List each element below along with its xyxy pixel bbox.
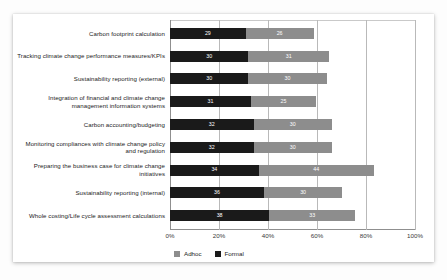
chart-legend: Adhoc Formal [174, 250, 244, 257]
bar-value-label: 44 [313, 167, 319, 172]
bar-value-label: 38 [217, 213, 223, 218]
bar-segment-adhoc[interactable]: 30 [248, 73, 326, 84]
bar-segment-formal[interactable]: 32 [170, 119, 254, 130]
bar-segment-formal[interactable]: 30 [170, 51, 248, 62]
x-tick-label: 40% [262, 232, 274, 239]
stacked-bar[interactable]: 3030 [170, 73, 431, 84]
bar-segment-formal[interactable]: 36 [170, 187, 264, 198]
bar-segment-formal[interactable]: 34 [170, 165, 259, 176]
bar-area: 3030 [170, 68, 431, 91]
category-label: Monitoring compliances with climate chan… [16, 140, 170, 155]
bar-segment-adhoc[interactable]: 44 [259, 165, 374, 176]
bar-value-label: 26 [277, 31, 283, 36]
bar-area: 3125 [170, 90, 431, 113]
x-tick-label: 20% [213, 232, 225, 239]
bar-segment-adhoc[interactable]: 31 [248, 51, 329, 62]
category-label: Whole costing/Life cycle assessment calc… [16, 212, 170, 220]
bar-value-label: 36 [214, 190, 220, 195]
bar-area: 3630 [170, 181, 431, 204]
stacked-bar[interactable]: 3230 [170, 119, 431, 130]
x-tick-label: 60% [311, 232, 323, 239]
bar-value-label: 32 [209, 145, 215, 150]
bar-area: 3833 [170, 204, 431, 227]
x-tick-label: 100% [407, 232, 423, 239]
bar-area: 3230 [170, 136, 431, 159]
chart-row: Carbon accounting/budgeting3230 [16, 113, 431, 136]
plot-top-border [170, 20, 415, 21]
stacked-bar[interactable]: 3230 [170, 142, 431, 153]
bar-segment-formal[interactable]: 32 [170, 142, 254, 153]
bar-segment-formal[interactable]: 29 [170, 28, 246, 39]
chart-card: Carbon footprint calculation2926Tracking… [13, 14, 434, 262]
bar-segment-formal[interactable]: 30 [170, 73, 248, 84]
bar-segment-formal[interactable]: 38 [170, 210, 269, 221]
plot-area: Carbon footprint calculation2926Tracking… [13, 14, 434, 262]
bar-segment-adhoc[interactable]: 30 [254, 142, 332, 153]
legend-swatch-adhoc-icon [174, 251, 180, 257]
bar-area: 3444 [170, 159, 431, 182]
bar-area: 3031 [170, 45, 431, 68]
x-tick-label: 0% [166, 232, 175, 239]
chart-row: Sustainability reporting (external)3030 [16, 68, 431, 91]
category-label: Preparing the business case for climate … [16, 162, 170, 177]
category-label: Sustainability reporting (internal) [16, 189, 170, 197]
bar-value-label: 30 [290, 122, 296, 127]
category-label: Tracking climate change performance meas… [16, 52, 170, 60]
bar-segment-adhoc[interactable]: 25 [251, 96, 316, 107]
stacked-bar[interactable]: 3444 [170, 165, 431, 176]
bar-segment-adhoc[interactable]: 26 [246, 28, 314, 39]
bar-segment-adhoc[interactable]: 30 [264, 187, 342, 198]
bar-segment-adhoc[interactable]: 33 [269, 210, 355, 221]
chart-row: Whole costing/Life cycle assessment calc… [16, 204, 431, 227]
legend-label-adhoc: Adhoc [184, 250, 202, 257]
chart-row: Sustainability reporting (internal)3630 [16, 181, 431, 204]
bar-value-label: 33 [309, 213, 315, 218]
plot-bottom-axis [170, 229, 415, 230]
bar-value-label: 30 [300, 190, 306, 195]
legend-swatch-formal-icon [215, 251, 221, 257]
chart-page: Carbon footprint calculation2926Tracking… [0, 0, 447, 280]
bar-value-label: 30 [284, 76, 290, 81]
chart-row: Preparing the business case for climate … [16, 159, 431, 182]
chart-row: Integration of financial and climate cha… [16, 90, 431, 113]
bar-value-label: 32 [209, 122, 215, 127]
category-label: Sustainability reporting (external) [16, 75, 170, 83]
x-tick-label: 80% [360, 232, 372, 239]
x-axis-ticks: 0%20%40%60%80%100% [170, 232, 415, 244]
bar-segment-adhoc[interactable]: 30 [254, 119, 332, 130]
bar-value-label: 29 [205, 31, 211, 36]
bar-value-label: 30 [206, 54, 212, 59]
stacked-bar[interactable]: 3125 [170, 96, 431, 107]
category-label: Carbon footprint calculation [16, 30, 170, 38]
legend-item-adhoc[interactable]: Adhoc [174, 250, 202, 257]
stacked-bar[interactable]: 3031 [170, 51, 431, 62]
legend-label-formal: Formal [225, 250, 244, 257]
bar-value-label: 30 [290, 145, 296, 150]
stacked-bar[interactable]: 3630 [170, 187, 431, 198]
stacked-bar[interactable]: 3833 [170, 210, 431, 221]
chart-row: Monitoring compliances with climate chan… [16, 136, 431, 159]
bar-area: 3230 [170, 113, 431, 136]
chart-row: Carbon footprint calculation2926 [16, 22, 431, 45]
bar-value-label: 34 [211, 167, 217, 172]
bar-value-label: 30 [206, 76, 212, 81]
bar-rows: Carbon footprint calculation2926Tracking… [16, 22, 431, 227]
category-label: Carbon accounting/budgeting [16, 121, 170, 129]
stacked-bar[interactable]: 2926 [170, 28, 431, 39]
category-label: Integration of financial and climate cha… [16, 94, 170, 109]
legend-item-formal[interactable]: Formal [215, 250, 244, 257]
bar-segment-formal[interactable]: 31 [170, 96, 251, 107]
bar-value-label: 31 [208, 99, 214, 104]
bar-value-label: 25 [281, 99, 287, 104]
bar-value-label: 31 [286, 54, 292, 59]
bar-area: 2926 [170, 22, 431, 45]
chart-row: Tracking climate change performance meas… [16, 45, 431, 68]
